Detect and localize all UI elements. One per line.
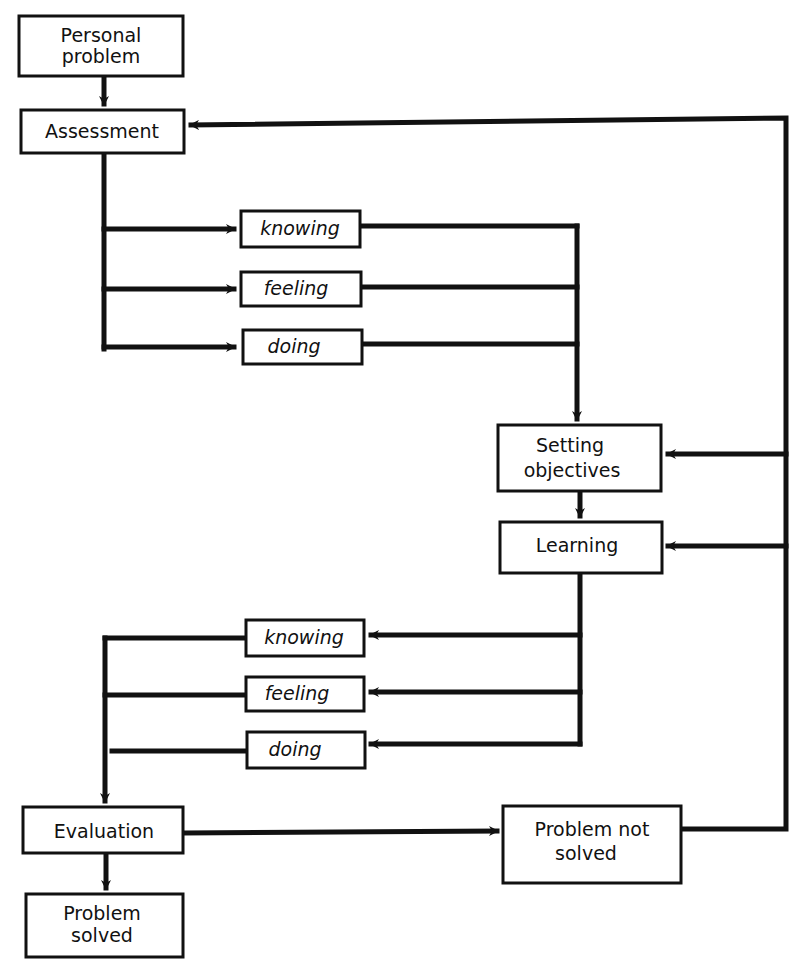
node-label: problem [62, 45, 141, 67]
node-label: knowing [264, 626, 344, 648]
node-problem-not-solved: Problem not solved [503, 806, 681, 883]
flowchart-canvas: Personal problem Assessment knowing feel… [0, 0, 800, 967]
node-label: Learning [536, 534, 619, 556]
node-label: Setting [536, 434, 604, 456]
connectors [104, 78, 786, 888]
node-label: Assessment [45, 120, 159, 142]
node-lower-knowing: knowing [246, 620, 364, 656]
node-lower-feeling: feeling [246, 677, 364, 711]
node-lower-doing: doing [247, 732, 365, 768]
node-setting-objectives: Setting objectives [498, 425, 661, 491]
node-assessment: Assessment [21, 110, 184, 153]
node-learning: Learning [500, 522, 662, 573]
node-label: doing [267, 335, 320, 357]
node-label: Evaluation [54, 820, 154, 842]
node-problem-solved: Problem solved [26, 894, 183, 957]
node-label: solved [71, 924, 133, 946]
node-personal-problem: Personal problem [19, 16, 183, 76]
node-upper-feeling: feeling [241, 272, 361, 306]
node-upper-knowing: knowing [241, 211, 360, 247]
node-label: objectives [524, 459, 621, 481]
node-label: Personal [61, 24, 142, 46]
node-evaluation: Evaluation [23, 807, 183, 853]
node-upper-doing: doing [243, 330, 362, 364]
node-label: feeling [265, 682, 330, 704]
node-label: Problem not [535, 818, 650, 840]
node-label: solved [555, 842, 617, 864]
node-label: feeling [264, 277, 329, 299]
node-label: knowing [260, 217, 340, 239]
node-label: Problem [63, 902, 141, 924]
edge-evaluation-to-not-solved [185, 831, 497, 833]
node-label: doing [268, 738, 321, 760]
